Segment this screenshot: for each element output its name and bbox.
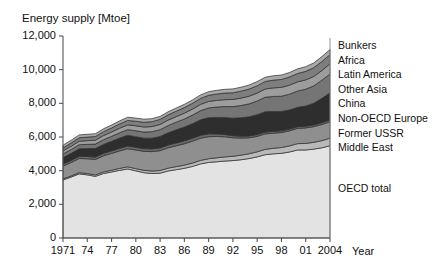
chart-container: Energy supply [Mtoe] 12,00010,0008,0006,… <box>0 0 446 276</box>
x-tick-label: 2004 <box>313 244 347 256</box>
legend-entry-non-oecd-europe: Non-OECD Europe <box>338 112 428 124</box>
legend-entry-other-asia: Other Asia <box>338 83 387 95</box>
legend-entry-former-ussr: Former USSR <box>338 127 404 139</box>
legend-entry-china: China <box>338 97 365 109</box>
y-tick-label: 8,000 <box>10 96 56 108</box>
legend-entry-bunkers: Bunkers <box>338 39 377 51</box>
y-tick-label: 10,000 <box>10 63 56 75</box>
legend-entry-latin-america: Latin America <box>338 68 402 80</box>
legend-entry-africa: Africa <box>338 54 365 66</box>
y-tick-label: 2,000 <box>10 197 56 209</box>
y-tick-label: 12,000 <box>10 29 56 41</box>
y-tick-label: 6,000 <box>10 130 56 142</box>
inline-label-oecd-total: OECD total <box>338 182 391 194</box>
y-tick-label: 4,000 <box>10 164 56 176</box>
y-tick-label: 0 <box>10 231 56 243</box>
legend-entry-middle-east: Middle East <box>338 141 393 153</box>
x-axis-title: Year <box>352 245 374 257</box>
